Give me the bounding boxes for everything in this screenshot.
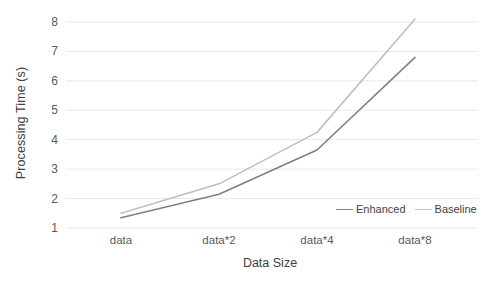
legend-line-icon [415, 209, 432, 210]
y-tick-label: 3 [36, 163, 58, 175]
gridlines [66, 22, 478, 228]
plot-area [66, 8, 478, 229]
legend-item-baseline[interactable]: Baseline [415, 203, 477, 215]
x-axis-title: Data Size [60, 256, 480, 270]
y-axis-title: Processing Time (s) [6, 0, 36, 246]
y-tick-label: 2 [36, 193, 58, 205]
y-tick-label: 6 [36, 75, 58, 87]
x-tick-label: data [76, 234, 166, 246]
series-lines [121, 19, 415, 218]
series-line-baseline [121, 19, 415, 213]
y-tick-label: 5 [36, 104, 58, 116]
x-tick-label: data*2 [174, 234, 264, 246]
x-tick-label: data*4 [272, 234, 362, 246]
legend-item-label: Baseline [435, 203, 477, 215]
x-tick-label: data*8 [370, 234, 460, 246]
y-tick-label: 7 [36, 45, 58, 57]
x-axis-title-text: Data Size [243, 256, 297, 270]
legend-line-icon [336, 209, 353, 210]
line-chart: Processing Time (s) 12345678 EnhancedBas… [0, 0, 481, 281]
plot-svg [66, 8, 478, 229]
chart-legend: EnhancedBaseline [336, 203, 477, 215]
legend-item-label: Enhanced [356, 203, 406, 215]
y-tick-label: 8 [36, 16, 58, 28]
y-axis-title-text: Processing Time (s) [14, 67, 28, 179]
y-tick-label: 4 [36, 134, 58, 146]
legend-item-enhanced[interactable]: Enhanced [336, 203, 406, 215]
series-line-enhanced [121, 57, 415, 217]
y-tick-label: 1 [36, 222, 58, 234]
